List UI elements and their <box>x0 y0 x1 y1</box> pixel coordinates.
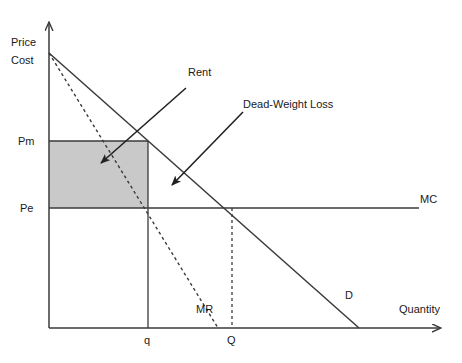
annotation-label-rent: Rent <box>188 66 211 79</box>
dead-weight-loss-arrow <box>172 112 243 185</box>
annotation-label-dead-weight-loss: Dead-Weight Loss <box>243 98 333 111</box>
y-axis-label-cost: Cost <box>11 54 34 67</box>
rent-rectangle <box>49 141 148 208</box>
curve-label-mr: MR <box>196 303 213 316</box>
curve-label-mc: MC <box>420 193 437 206</box>
quantity-tick-Q: Q <box>227 334 236 347</box>
quantity-tick-q: q <box>144 334 150 347</box>
price-tick-pm: Pm <box>18 135 35 148</box>
x-axis-label-quantity: Quantity <box>399 303 440 316</box>
price-tick-pe: Pe <box>20 202 33 215</box>
y-axis-label-price: Price <box>11 36 36 49</box>
economics-diagram: Price Cost Quantity Pm Pe q Q MR D MC Re… <box>0 0 462 363</box>
curve-label-d: D <box>345 289 353 302</box>
diagram-canvas <box>0 0 462 363</box>
